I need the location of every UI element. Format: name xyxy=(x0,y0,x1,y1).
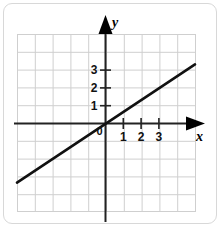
arrow-up-icon xyxy=(99,15,113,34)
origin-label: 0 xyxy=(96,125,102,137)
x-tick-label-3: 3 xyxy=(156,130,163,144)
x-axis-label: x xyxy=(195,129,203,144)
y-tick-label-2: 2 xyxy=(91,81,98,95)
coordinate-plane: 1 2 3 1 2 3 0 y x xyxy=(0,0,224,231)
y-tick-label-1: 1 xyxy=(91,99,98,113)
y-axis-label: y xyxy=(110,15,119,30)
graph-figure: 1 2 3 1 2 3 0 y x xyxy=(0,0,224,231)
x-tick-label-1: 1 xyxy=(120,130,127,144)
y-tick-label-3: 3 xyxy=(91,63,98,77)
x-tick-label-2: 2 xyxy=(138,130,145,144)
